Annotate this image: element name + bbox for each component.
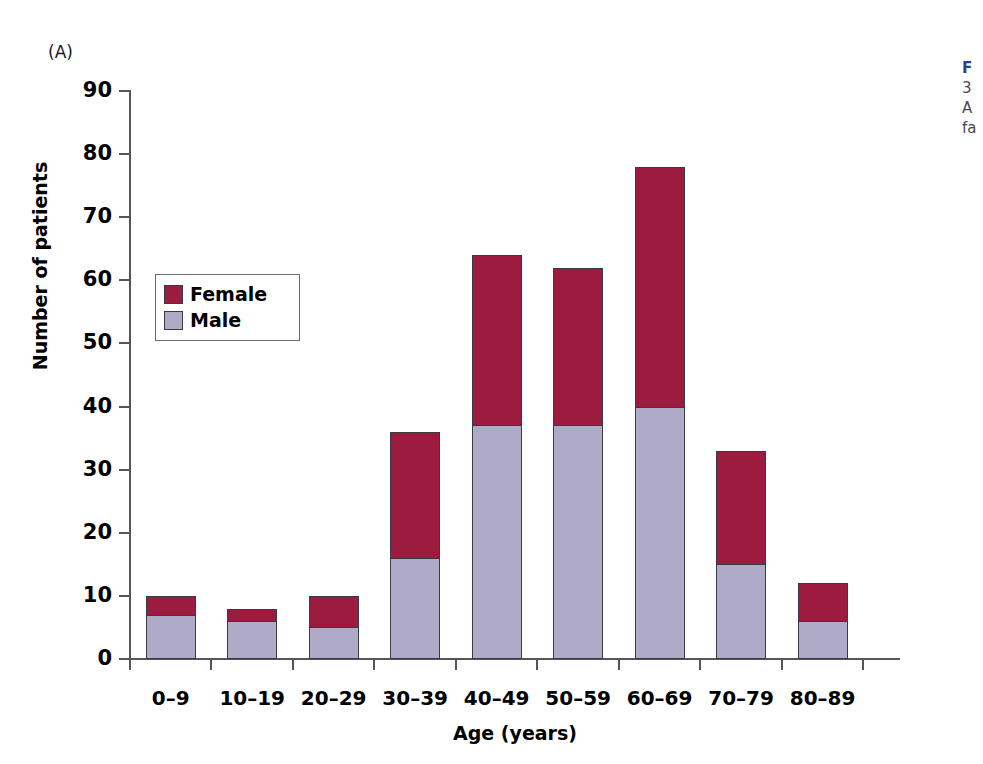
legend-swatch-male-icon xyxy=(164,311,183,330)
y-tick-label: 70 xyxy=(4,206,112,227)
legend-swatch-female-icon xyxy=(164,285,183,304)
y-tick-label: 10 xyxy=(4,585,112,606)
bar-stack xyxy=(227,609,277,659)
y-tick-mark xyxy=(119,532,130,534)
x-tick-mark xyxy=(292,659,294,670)
y-tick-label: 50 xyxy=(4,332,112,353)
x-tick-mark xyxy=(210,659,212,670)
x-tick-mark xyxy=(373,659,375,670)
x-tick-mark xyxy=(129,659,131,670)
caption-line-2: A xyxy=(962,98,983,118)
caption-line-3: fa xyxy=(962,118,983,138)
x-axis-title: Age (years) xyxy=(130,722,900,744)
bar-segment-female xyxy=(309,596,359,629)
y-axis-line xyxy=(129,90,131,660)
y-tick-label: 90 xyxy=(4,80,112,101)
y-tick-label: 30 xyxy=(4,459,112,480)
caption-line-1: 3 xyxy=(962,78,983,98)
x-tick-mark xyxy=(536,659,538,670)
x-tick-mark xyxy=(455,659,457,670)
legend-item-female: Female xyxy=(164,281,291,307)
y-tick-label: 0 xyxy=(4,648,112,669)
bar-segment-male xyxy=(227,621,277,659)
x-tick-mark xyxy=(699,659,701,670)
y-tick-label: 60 xyxy=(4,269,112,290)
y-axis-title: Number of patients xyxy=(29,136,51,396)
y-tick-mark xyxy=(119,90,130,92)
bar-segment-male xyxy=(716,564,766,659)
y-tick-mark xyxy=(119,595,130,597)
x-tick-label: 80–89 xyxy=(763,686,883,710)
caption-figure-head: F xyxy=(962,58,983,78)
bar-segment-male xyxy=(635,407,685,659)
bar-segment-male xyxy=(146,615,196,659)
bar-segment-male xyxy=(472,425,522,659)
bar-segment-female xyxy=(716,451,766,566)
bar-segment-female xyxy=(472,255,522,426)
bar-chart-figure: 0102030405060708090 0–910–1920–2930–3940… xyxy=(0,0,900,764)
bar-segment-female xyxy=(390,432,440,559)
y-tick-mark xyxy=(119,279,130,281)
legend-label-female: Female xyxy=(190,285,267,304)
bar-stack xyxy=(716,451,766,659)
bar-stack xyxy=(798,583,848,659)
bar-segment-male xyxy=(390,558,440,659)
bar-segment-female xyxy=(798,583,848,622)
y-tick-mark xyxy=(119,342,130,344)
y-tick-mark xyxy=(119,469,130,471)
bar-segment-male xyxy=(309,627,359,659)
chart-legend: Female Male xyxy=(155,274,300,341)
x-tick-mark xyxy=(618,659,620,670)
bar-segment-male xyxy=(798,621,848,659)
y-tick-label: 40 xyxy=(4,396,112,417)
x-tick-mark xyxy=(862,659,864,670)
y-tick-label: 80 xyxy=(4,143,112,164)
bar-stack xyxy=(146,596,196,659)
bar-stack xyxy=(553,268,603,659)
y-tick-mark xyxy=(119,406,130,408)
bar-stack xyxy=(309,596,359,659)
bar-segment-female xyxy=(553,268,603,427)
bar-stack xyxy=(390,432,440,659)
bar-segment-female xyxy=(227,609,277,623)
y-tick-mark xyxy=(119,153,130,155)
x-tick-mark xyxy=(781,659,783,670)
bar-stack xyxy=(635,167,685,659)
y-tick-label: 20 xyxy=(4,522,112,543)
bar-segment-female xyxy=(146,596,196,616)
bar-segment-male xyxy=(553,425,603,659)
legend-item-male: Male xyxy=(164,307,291,333)
bar-stack xyxy=(472,255,522,659)
legend-label-male: Male xyxy=(190,311,241,330)
y-tick-mark xyxy=(119,216,130,218)
bar-segment-female xyxy=(635,167,685,408)
figure-caption-fragment: F 3 A fa xyxy=(962,58,983,138)
